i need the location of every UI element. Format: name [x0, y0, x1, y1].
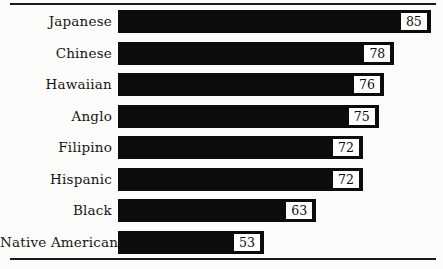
bar: 75	[118, 105, 379, 128]
category-label: Hispanic	[0, 168, 118, 191]
bar: 72	[118, 136, 363, 159]
value-label: 53	[234, 234, 260, 251]
value-label: 75	[349, 108, 375, 125]
value-label: 72	[333, 139, 359, 156]
bar-row: Chinese 78	[0, 42, 436, 65]
bar-area: 78	[118, 42, 436, 65]
bar-area: 72	[118, 136, 436, 159]
bar-row: Japanese 85	[0, 10, 436, 33]
bar-area: 53	[118, 231, 436, 254]
bottom-rule	[10, 258, 436, 260]
value-label: 76	[354, 76, 380, 93]
bar-row: Hispanic 72	[0, 168, 436, 191]
bar: 76	[118, 73, 384, 96]
bar-chart-figure: Japanese 85 Chinese 78 Hawaiian 76	[0, 0, 443, 269]
bar-area: 76	[118, 73, 436, 96]
value-label: 85	[401, 13, 427, 30]
bar-row: Hawaiian 76	[0, 73, 436, 96]
bar: 63	[118, 199, 316, 222]
category-label: Filipino	[0, 136, 118, 159]
bar-area: 72	[118, 168, 436, 191]
value-label: 63	[286, 202, 312, 219]
bar-area: 75	[118, 105, 436, 128]
category-label: Black	[0, 199, 118, 222]
bar-row: Native American 53	[0, 231, 436, 254]
value-label: 78	[364, 45, 390, 62]
category-label: Hawaiian	[0, 73, 118, 96]
category-label: Japanese	[0, 10, 118, 33]
chart-rows: Japanese 85 Chinese 78 Hawaiian 76	[0, 10, 436, 254]
bar-area: 85	[118, 10, 436, 33]
bar: 72	[118, 168, 363, 191]
value-label: 72	[333, 171, 359, 188]
bar: 78	[118, 42, 394, 65]
bar-row: Black 63	[0, 199, 436, 222]
bar-area: 63	[118, 199, 436, 222]
top-rule	[10, 3, 436, 5]
bar-row: Anglo 75	[0, 105, 436, 128]
bar: 85	[118, 10, 431, 33]
category-label: Chinese	[0, 42, 118, 65]
bar-row: Filipino 72	[0, 136, 436, 159]
category-label: Anglo	[0, 105, 118, 128]
category-label: Native American	[0, 231, 118, 254]
bar: 53	[118, 231, 264, 254]
